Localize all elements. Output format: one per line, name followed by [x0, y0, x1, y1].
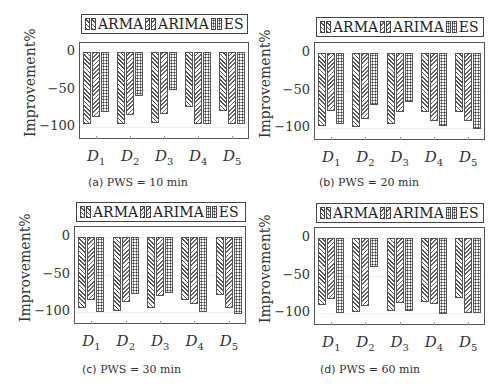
x-tick-mark — [229, 321, 230, 324]
x-tick-mark — [365, 137, 366, 140]
gridline — [315, 128, 484, 129]
x-tick-subscript: 5 — [232, 341, 238, 352]
x-tick-subscript: 2 — [368, 342, 374, 353]
bar-arma-d3 — [151, 52, 159, 123]
x-tick-base: D — [121, 147, 133, 165]
x-tick-mark — [468, 322, 469, 325]
legend: ARMAARIMAES — [76, 202, 246, 222]
bar-es-d5 — [234, 237, 242, 314]
bar-arima-d2 — [361, 238, 369, 306]
bar-es-d1 — [96, 237, 104, 312]
legend-swatch-icon — [91, 18, 96, 30]
bar-arma-d5 — [216, 237, 224, 295]
legend-swatch-icon — [452, 207, 457, 219]
legend-entry-arima: ARIMA — [380, 205, 444, 221]
x-tick-label: D3 — [391, 148, 409, 168]
x-tick-mark — [130, 136, 131, 139]
x-tick-mark — [331, 137, 332, 140]
bar-arma-d3 — [387, 238, 395, 311]
bar-arma-d2 — [117, 52, 125, 124]
x-tick-base: D — [322, 333, 334, 351]
x-tick-base: D — [155, 147, 167, 165]
legend: ARMAARIMAES — [316, 17, 484, 37]
x-tick-subscript: 3 — [167, 156, 173, 167]
legend-label: ES — [219, 204, 239, 220]
legend-swatch-icon — [146, 206, 151, 218]
legend-label: ARMA — [93, 204, 138, 220]
bar-arima-d4 — [194, 52, 202, 124]
x-tick-base: D — [151, 332, 163, 350]
legend-swatch-icon — [446, 207, 451, 219]
bar-arma-d1 — [318, 238, 326, 305]
panel-caption: (d) PWS = 60 min — [320, 363, 420, 376]
x-tick-mark — [331, 322, 332, 325]
legend-entry-es: ES — [206, 204, 239, 220]
x-tick-mark — [160, 321, 161, 324]
bar-arma-d4 — [421, 53, 429, 112]
bar-es-d1 — [336, 53, 344, 124]
legend: ARMAARIMAES — [81, 14, 248, 34]
bar-es-d4 — [203, 52, 211, 124]
legend-swatch-icon — [386, 207, 391, 219]
legend-entry-arima: ARIMA — [380, 19, 444, 35]
caption-text: PWS = 20 min — [338, 176, 419, 189]
gridline — [315, 313, 484, 314]
panel-caption: (a) PWS = 10 min — [88, 176, 188, 189]
y-axis-label: Improvement% — [257, 29, 273, 138]
bar-arima-d2 — [126, 52, 134, 115]
y-axis-label: Improvement% — [22, 28, 38, 137]
x-tick-subscript: 5 — [471, 157, 477, 168]
x-tick-label: D2 — [356, 148, 374, 168]
x-tick-mark — [434, 322, 435, 325]
legend-label: ES — [224, 16, 244, 32]
y-axis-label: Improvement% — [257, 214, 273, 323]
legend-swatch-icon — [145, 18, 150, 30]
legend-entry-es: ES — [446, 205, 479, 221]
bar-es-d2 — [370, 238, 378, 267]
x-tick-subscript: 3 — [403, 342, 409, 353]
bar-es-d3 — [405, 53, 413, 102]
x-tick-label: D4 — [425, 148, 443, 168]
legend-label: ARIMA — [393, 205, 444, 221]
x-tick-base: D — [391, 148, 403, 166]
y-axis-label: Improvement% — [17, 213, 33, 322]
x-tick-mark — [434, 137, 435, 140]
x-tick-label: D3 — [391, 333, 409, 353]
legend-label: ARIMA — [393, 19, 444, 35]
x-tick-subscript: 1 — [99, 156, 105, 167]
x-tick-base: D — [117, 332, 129, 350]
panel-caption: (b) PWS = 20 min — [319, 176, 419, 189]
x-tick-label: D2 — [121, 147, 139, 167]
legend-entry-arma: ARMA — [80, 204, 138, 220]
bar-arma-d5 — [219, 52, 227, 111]
bar-arima-d1 — [87, 237, 95, 300]
bar-arma-d1 — [83, 52, 91, 124]
x-tick-base: D — [322, 148, 334, 166]
x-tick-mark — [194, 321, 195, 324]
bar-arima-d2 — [361, 53, 369, 119]
x-tick-label: D5 — [459, 333, 477, 353]
x-tick-base: D — [391, 333, 403, 351]
x-tick-label: D1 — [322, 148, 340, 168]
bar-es-d2 — [135, 52, 143, 96]
x-tick-label: D3 — [151, 332, 169, 352]
legend-label: ARMA — [98, 16, 143, 32]
bar-arima-d1 — [327, 53, 335, 111]
x-tick-subscript: 4 — [437, 342, 443, 353]
bar-arma-d2 — [113, 237, 121, 311]
x-tick-subscript: 3 — [403, 157, 409, 168]
legend-label: ARIMA — [158, 16, 209, 32]
bar-arima-d1 — [92, 52, 100, 117]
bar-es-d5 — [473, 238, 481, 313]
bar-arma-d1 — [78, 237, 86, 308]
gridline — [75, 312, 245, 313]
bar-arima-d5 — [228, 52, 236, 124]
bar-arima-d5 — [464, 238, 472, 313]
x-tick-label: D2 — [117, 332, 135, 352]
x-tick-subscript: 4 — [437, 157, 443, 168]
x-tick-label: D4 — [425, 333, 443, 353]
legend-swatch-icon — [386, 21, 391, 33]
legend-swatch-icon — [326, 21, 331, 33]
legend-entry-arima: ARIMA — [145, 16, 209, 32]
panel-caption: (c) PWS = 30 min — [82, 363, 181, 376]
